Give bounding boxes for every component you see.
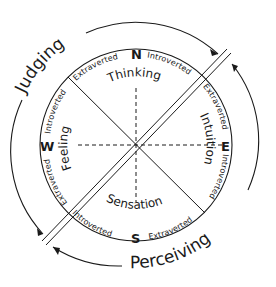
arrow-head-icon <box>37 228 43 236</box>
south-letter: S <box>131 231 140 246</box>
west-letter: W <box>40 139 54 154</box>
feeling-label: Feeling <box>56 124 74 172</box>
jung-type-compass-diagram: Judging Perceiving N E S W Extraverted I… <box>0 0 276 287</box>
intuition-label: Intuition <box>197 111 218 167</box>
south-right-attitude: Extraverted <box>148 215 194 242</box>
thinking-label: Thinking <box>105 65 164 85</box>
north-letter: N <box>131 47 142 62</box>
east-letter: E <box>221 139 230 154</box>
south-left-attitude: Introverted <box>71 208 114 238</box>
arrow-head-icon <box>53 247 60 255</box>
sensation-label: Sensation <box>104 191 164 212</box>
